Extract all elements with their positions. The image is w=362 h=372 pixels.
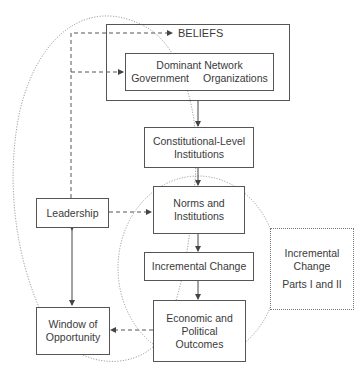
- constitutional-line1: Constitutional-Level: [153, 135, 245, 148]
- constitutional-institutions-box: Constitutional-Level Institutions: [144, 127, 254, 168]
- outcomes-line1: Economic and: [166, 312, 233, 325]
- side-note-line2: Change: [294, 260, 331, 273]
- government-label: Government: [131, 72, 189, 85]
- leadership-label: Leadership: [47, 207, 99, 220]
- dominant-network-box: Dominant Network Government Organization…: [125, 53, 274, 91]
- norms-institutions-box: Norms and Institutions: [153, 186, 245, 234]
- beliefs-label: BELIEFS: [178, 27, 223, 40]
- dominant-network-title: Dominant Network: [156, 59, 242, 72]
- side-note-line1: Incremental: [285, 247, 340, 260]
- norms-line2: Institutions: [174, 210, 224, 223]
- norms-line1: Norms and: [173, 197, 224, 210]
- economic-political-outcomes-box: Economic and Political Outcomes: [153, 300, 246, 362]
- organizations-label: Organizations: [203, 72, 268, 85]
- outcomes-line2: Political: [181, 325, 217, 338]
- leadership-box: Leadership: [36, 198, 109, 228]
- constitutional-line2: Institutions: [174, 148, 224, 161]
- window-of-opportunity-box: Window of Opportunity: [36, 307, 110, 355]
- window-line2: Opportunity: [46, 331, 100, 344]
- incremental-change-label: Incremental Change: [152, 260, 247, 273]
- incremental-change-parts-box: Incremental Change Parts I and II: [270, 228, 354, 310]
- incremental-change-box: Incremental Change: [144, 252, 254, 281]
- side-note-line3: Parts I and II: [282, 278, 342, 291]
- window-line1: Window of: [48, 318, 97, 331]
- outcomes-line3: Outcomes: [176, 338, 224, 351]
